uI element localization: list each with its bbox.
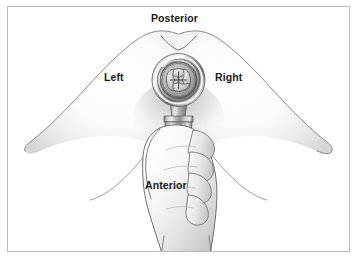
orientation-label-left: Left [104,72,124,83]
port-head-group [152,54,205,107]
port-flange [164,116,193,122]
illustration-canvas [0,0,357,259]
orientation-label-right: Right [215,72,242,83]
orientation-label-anterior: Anterior [145,180,187,191]
figure-root: Posterior Left Right Anterior [0,0,357,259]
orientation-label-posterior: Posterior [151,13,198,24]
